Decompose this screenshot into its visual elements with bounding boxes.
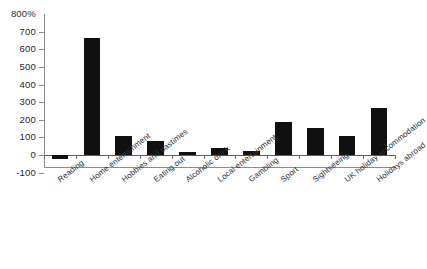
y-axis-label: -100 bbox=[0, 167, 36, 178]
y-axis-tick bbox=[39, 67, 44, 68]
y-axis-label: 700 bbox=[0, 26, 36, 37]
x-axis-tick bbox=[140, 155, 141, 159]
x-axis-tick bbox=[299, 155, 300, 159]
bar bbox=[52, 155, 69, 159]
y-axis-line bbox=[44, 14, 45, 167]
x-axis-tick bbox=[204, 155, 205, 159]
y-axis-label: 600 bbox=[0, 43, 36, 54]
y-axis-label: 200 bbox=[0, 114, 36, 125]
y-axis-tick bbox=[39, 173, 44, 174]
x-axis-tick bbox=[108, 155, 109, 159]
y-axis-tick bbox=[39, 120, 44, 121]
y-axis-tick bbox=[39, 102, 44, 103]
y-axis-tick bbox=[39, 49, 44, 50]
x-axis-tick bbox=[395, 155, 396, 159]
bar bbox=[84, 38, 101, 155]
y-axis-label: 100 bbox=[0, 131, 36, 142]
x-axis-tick bbox=[44, 155, 45, 159]
y-axis-tick bbox=[39, 137, 44, 138]
x-axis-tick bbox=[76, 155, 77, 159]
y-axis-tick bbox=[39, 85, 44, 86]
x-axis-category-label: Reading bbox=[56, 158, 86, 184]
x-axis-tick bbox=[331, 155, 332, 159]
y-axis-label: 300 bbox=[0, 96, 36, 107]
x-axis-tick bbox=[172, 155, 173, 159]
y-axis-label: 800% bbox=[0, 8, 36, 19]
x-axis-tick bbox=[235, 155, 236, 159]
x-axis-tick bbox=[267, 155, 268, 159]
y-axis-label: 500 bbox=[0, 61, 36, 72]
x-axis-bottom-line bbox=[44, 167, 395, 168]
y-axis-label: 400 bbox=[0, 79, 36, 90]
x-axis-tick bbox=[363, 155, 364, 159]
y-axis-label: 0 bbox=[0, 149, 36, 160]
y-axis-tick bbox=[39, 32, 44, 33]
bar bbox=[307, 128, 324, 155]
